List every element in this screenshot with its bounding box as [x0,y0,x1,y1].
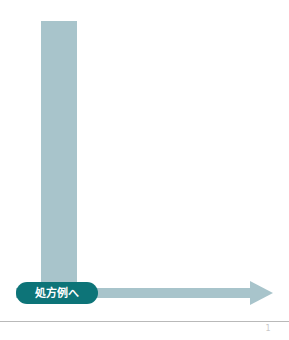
footer-divider [0,321,289,322]
flow-diagram: 処方例へ [0,0,289,318]
page-number: 1 [256,324,280,334]
prescription-example-link-label: 処方例へ [35,288,79,299]
arrow-head-right-icon [250,281,273,305]
prescription-example-link-button[interactable]: 処方例へ [16,282,98,304]
document-page: 処方例へ 1 [0,0,289,340]
vertical-arrow-stem [41,21,77,291]
